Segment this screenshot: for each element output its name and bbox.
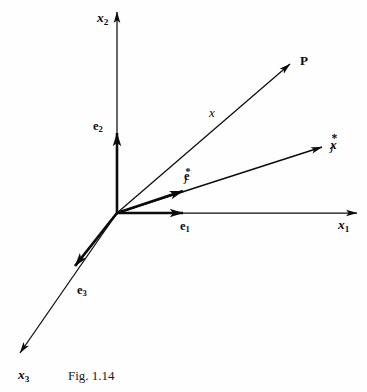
axis-label-x3: x3: [18, 368, 29, 384]
vector-line-x: [117, 64, 290, 213]
basis-label-e3-sub: 3: [83, 288, 87, 298]
basis-label-e1: e1: [180, 220, 190, 234]
axis-label-x3-base: x: [18, 367, 25, 382]
axis-label-xj-star-sup: *: [331, 133, 337, 145]
axis-line-x3: [20, 213, 117, 353]
vector-label-x: x: [209, 106, 215, 119]
axis-label-x2-base: x: [97, 10, 104, 25]
basis-label-ej-star: ej*: [184, 170, 196, 183]
basis-label-e3: e3: [77, 284, 87, 298]
point-label-p: P: [300, 54, 308, 67]
axis-label-x1-base: x: [338, 217, 345, 232]
basis-label-e2: e2: [93, 120, 103, 134]
basis-label-ej-star-sub: j: [184, 175, 186, 184]
basis-vector-ej-star: [117, 191, 183, 213]
vector-diagram: [0, 0, 367, 392]
axis-label-x2-sub: 2: [104, 17, 109, 27]
basis-label-ej-star-sup: *: [185, 166, 190, 177]
figure-canvas: x2 x1 x3 xj* e1 e2 e3 ej* x P Fig. 1.14: [0, 0, 367, 392]
basis-label-e1-sub: 1: [186, 224, 190, 234]
axis-label-xj-star: xj*: [330, 138, 344, 152]
basis-vector-e3: [75, 213, 117, 266]
axis-label-x2: x2: [97, 11, 108, 27]
basis-vectors-group: [75, 133, 183, 266]
axis-label-x3-sub: 3: [25, 374, 30, 384]
figure-caption: Fig. 1.14: [68, 369, 115, 382]
axis-label-x1-sub: 1: [345, 224, 350, 234]
basis-label-e2-sub: 2: [99, 124, 103, 134]
axis-label-xj-star-sub: j: [330, 144, 333, 153]
axis-label-x1: x1: [338, 218, 349, 234]
